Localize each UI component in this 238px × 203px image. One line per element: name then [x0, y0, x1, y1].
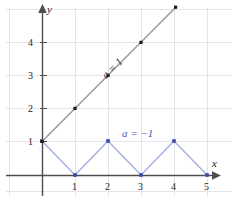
series-a-negative	[40, 139, 209, 177]
y-tick-label-1: 1	[28, 137, 33, 147]
x-axis-label: x	[212, 158, 217, 169]
grid-lines-horizontal	[6, 10, 232, 192]
curve-label-a-negative: a = −1	[122, 128, 153, 139]
y-tick-marks	[40, 43, 47, 142]
y-tick-label-2: 2	[28, 104, 33, 114]
x-tick-label-2: 2	[105, 182, 110, 192]
x-tick-label-3: 3	[138, 182, 143, 192]
x-tick-label-5: 5	[204, 182, 209, 192]
plot-figure: y x 1 2 3 4 1 2 3 4 5 a = 1 a = −1	[0, 0, 238, 203]
x-tick-label-1: 1	[72, 182, 77, 192]
x-tick-label-4: 4	[171, 182, 176, 192]
y-tick-label-3: 3	[28, 71, 33, 81]
y-tick-label-4: 4	[28, 38, 33, 48]
y-axis-label: y	[47, 4, 52, 15]
grid-lines-vertical	[10, 8, 208, 196]
y-axis	[38, 4, 47, 196]
plot-canvas	[0, 0, 238, 203]
x-axis	[6, 171, 221, 180]
